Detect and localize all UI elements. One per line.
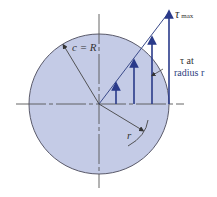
r-label: r bbox=[127, 129, 132, 141]
tau-max-label: τmax bbox=[175, 7, 194, 21]
shaft-cross-section-diagram: c = R τmax τ at radius r r bbox=[0, 0, 217, 197]
radius-c-label: c = R bbox=[72, 41, 97, 53]
tau-at-label: τ at bbox=[180, 55, 194, 66]
radius-r-label: radius r bbox=[174, 67, 205, 78]
